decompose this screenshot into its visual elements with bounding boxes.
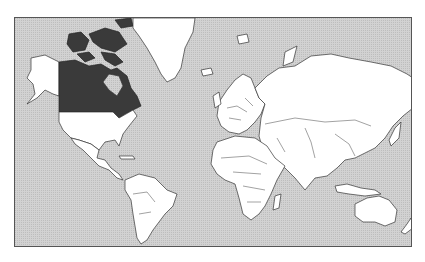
world-map-frame xyxy=(14,17,412,247)
caribbean-islands[interactable] xyxy=(119,156,135,159)
svalbard[interactable] xyxy=(237,34,249,44)
world-map xyxy=(15,18,412,247)
